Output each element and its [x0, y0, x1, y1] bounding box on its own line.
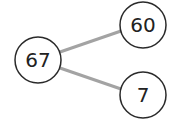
edge-67-60 [60, 31, 121, 52]
node-60: 60 [120, 2, 166, 48]
node-label: 67 [25, 48, 50, 72]
node-label: 60 [130, 13, 155, 37]
node-67: 67 [15, 37, 61, 83]
edge-67-7 [60, 68, 121, 89]
node-label: 7 [137, 83, 150, 107]
node-7: 7 [120, 72, 166, 118]
tree-diagram: 67 60 7 [0, 0, 179, 121]
